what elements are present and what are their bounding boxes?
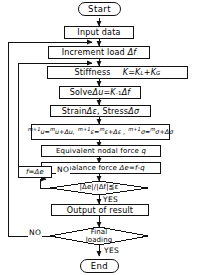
- input-data-label: Input data: [77, 28, 120, 37]
- increment-load-label: Increment load Δf: [62, 48, 137, 57]
- node-start: Start: [78, 2, 121, 16]
- strain-symbol: Δε: [87, 107, 97, 116]
- solve-label: Solve Δu=K-1Δf: [70, 88, 131, 97]
- end-label: End: [91, 261, 108, 271]
- reassign-label: f=Δe: [26, 168, 44, 176]
- solve-delta-f: Δf: [122, 88, 131, 97]
- increment-delta-f: Δf: [128, 48, 137, 57]
- strain-stress-label: Strain Δε , Stress Δσ: [62, 107, 139, 116]
- node-equivalent-nodal-force: Equivalent nodal force q: [41, 145, 161, 157]
- u-old-superscript: m: [50, 126, 55, 132]
- unbalance-force-label: Unbalance force Δe=f-q: [57, 164, 145, 172]
- edge-label-final-yes: YES: [103, 246, 120, 255]
- state-update-label: m+1u=mu+Δu, m+1ε=mε+Δε , m+1σ=mσ+Δσ: [28, 128, 173, 136]
- converge-diamond: [50, 181, 148, 195]
- stress-symbol: Δσ: [128, 107, 139, 116]
- node-state-update: m+1u=mu+Δu, m+1ε=mε+Δε , m+1σ=mσ+Δσ: [31, 124, 170, 140]
- final-diamond: [50, 227, 148, 245]
- nodal-force-label: Equivalent nodal force q: [56, 147, 146, 155]
- eps-old-superscript: m: [99, 126, 104, 132]
- node-strain-stress: Strain Δε , Stress Δσ: [50, 105, 151, 117]
- node-input-data: Input data: [64, 26, 134, 39]
- node-increment-load: Increment load Δf: [48, 46, 150, 59]
- start-label: Start: [88, 4, 111, 14]
- node-reassign-load: f=Δe: [18, 166, 52, 178]
- sig-old-superscript: m: [150, 126, 155, 132]
- unbalance-equation: Δe=f-q: [119, 164, 144, 172]
- node-end: End: [80, 259, 119, 273]
- edge-label-final-no: NO: [28, 228, 42, 237]
- stiffness-label: Stiffness K=KL+KG: [74, 68, 160, 77]
- node-stiffness: Stiffness K=KL+KG: [47, 66, 188, 79]
- edge-label-converge-no: NO: [56, 165, 70, 174]
- sig-new-superscript: m+1: [128, 126, 141, 132]
- output-result-label: Output of result: [67, 206, 133, 215]
- node-output-result: Output of result: [51, 204, 149, 216]
- nodal-force-q: q: [141, 147, 146, 155]
- node-solve: Solve Δu=K-1Δf: [59, 86, 141, 99]
- eps-new-superscript: m+1: [78, 126, 91, 132]
- u-new-superscript: m+1: [28, 126, 41, 132]
- stiffness-sub-G: G: [156, 70, 160, 76]
- solve-delta-u: Δu: [93, 88, 104, 97]
- edge-label-converge-yes: YES: [102, 195, 119, 204]
